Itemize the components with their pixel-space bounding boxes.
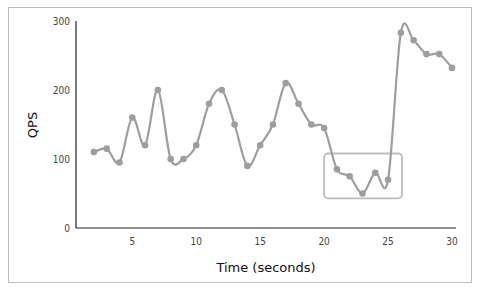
data-point xyxy=(385,176,392,183)
data-point xyxy=(244,163,251,170)
data-point xyxy=(282,80,289,87)
data-point xyxy=(218,87,225,94)
qps-series-line xyxy=(94,23,452,193)
y-tick-label: 0 xyxy=(64,223,70,234)
data-point xyxy=(436,51,443,58)
data-point xyxy=(167,156,174,163)
data-point xyxy=(423,51,430,58)
data-point xyxy=(116,159,123,166)
x-tick-label: 5 xyxy=(129,236,135,247)
data-point xyxy=(180,156,187,163)
x-tick-label: 10 xyxy=(190,236,202,247)
data-point xyxy=(142,142,149,149)
data-point xyxy=(91,149,98,156)
data-point xyxy=(346,173,353,180)
data-point xyxy=(295,101,302,108)
y-tick-label: 200 xyxy=(53,85,70,96)
y-tick-label: 100 xyxy=(53,154,70,165)
data-point xyxy=(206,101,213,108)
x-axis-label: Time (seconds) xyxy=(215,260,315,275)
data-point xyxy=(193,142,200,149)
data-point xyxy=(398,29,405,36)
y-tick-label: 300 xyxy=(53,16,70,27)
data-point xyxy=(334,166,341,173)
qps-line-chart: 010020030051015202530 QPS Time (seconds) xyxy=(0,0,482,290)
x-tick-label: 25 xyxy=(382,236,393,247)
data-point xyxy=(308,121,315,128)
data-point xyxy=(103,145,110,152)
data-point xyxy=(231,121,238,128)
data-point xyxy=(321,125,328,132)
x-tick-label: 15 xyxy=(254,236,265,247)
data-point xyxy=(129,114,136,121)
axes: 010020030051015202530 xyxy=(53,16,458,247)
data-point xyxy=(359,190,366,197)
data-point xyxy=(372,170,379,177)
qps-data-points xyxy=(91,29,456,196)
data-point xyxy=(449,65,456,72)
data-point xyxy=(257,142,264,149)
x-tick-label: 20 xyxy=(318,236,330,247)
data-point xyxy=(270,121,277,128)
x-tick-label: 30 xyxy=(446,236,458,247)
data-point xyxy=(155,87,162,94)
y-axis-label: QPS xyxy=(25,112,40,138)
data-point xyxy=(410,37,417,44)
